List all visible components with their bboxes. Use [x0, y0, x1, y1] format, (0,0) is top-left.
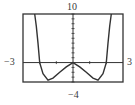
plot-area: [0, 0, 135, 105]
